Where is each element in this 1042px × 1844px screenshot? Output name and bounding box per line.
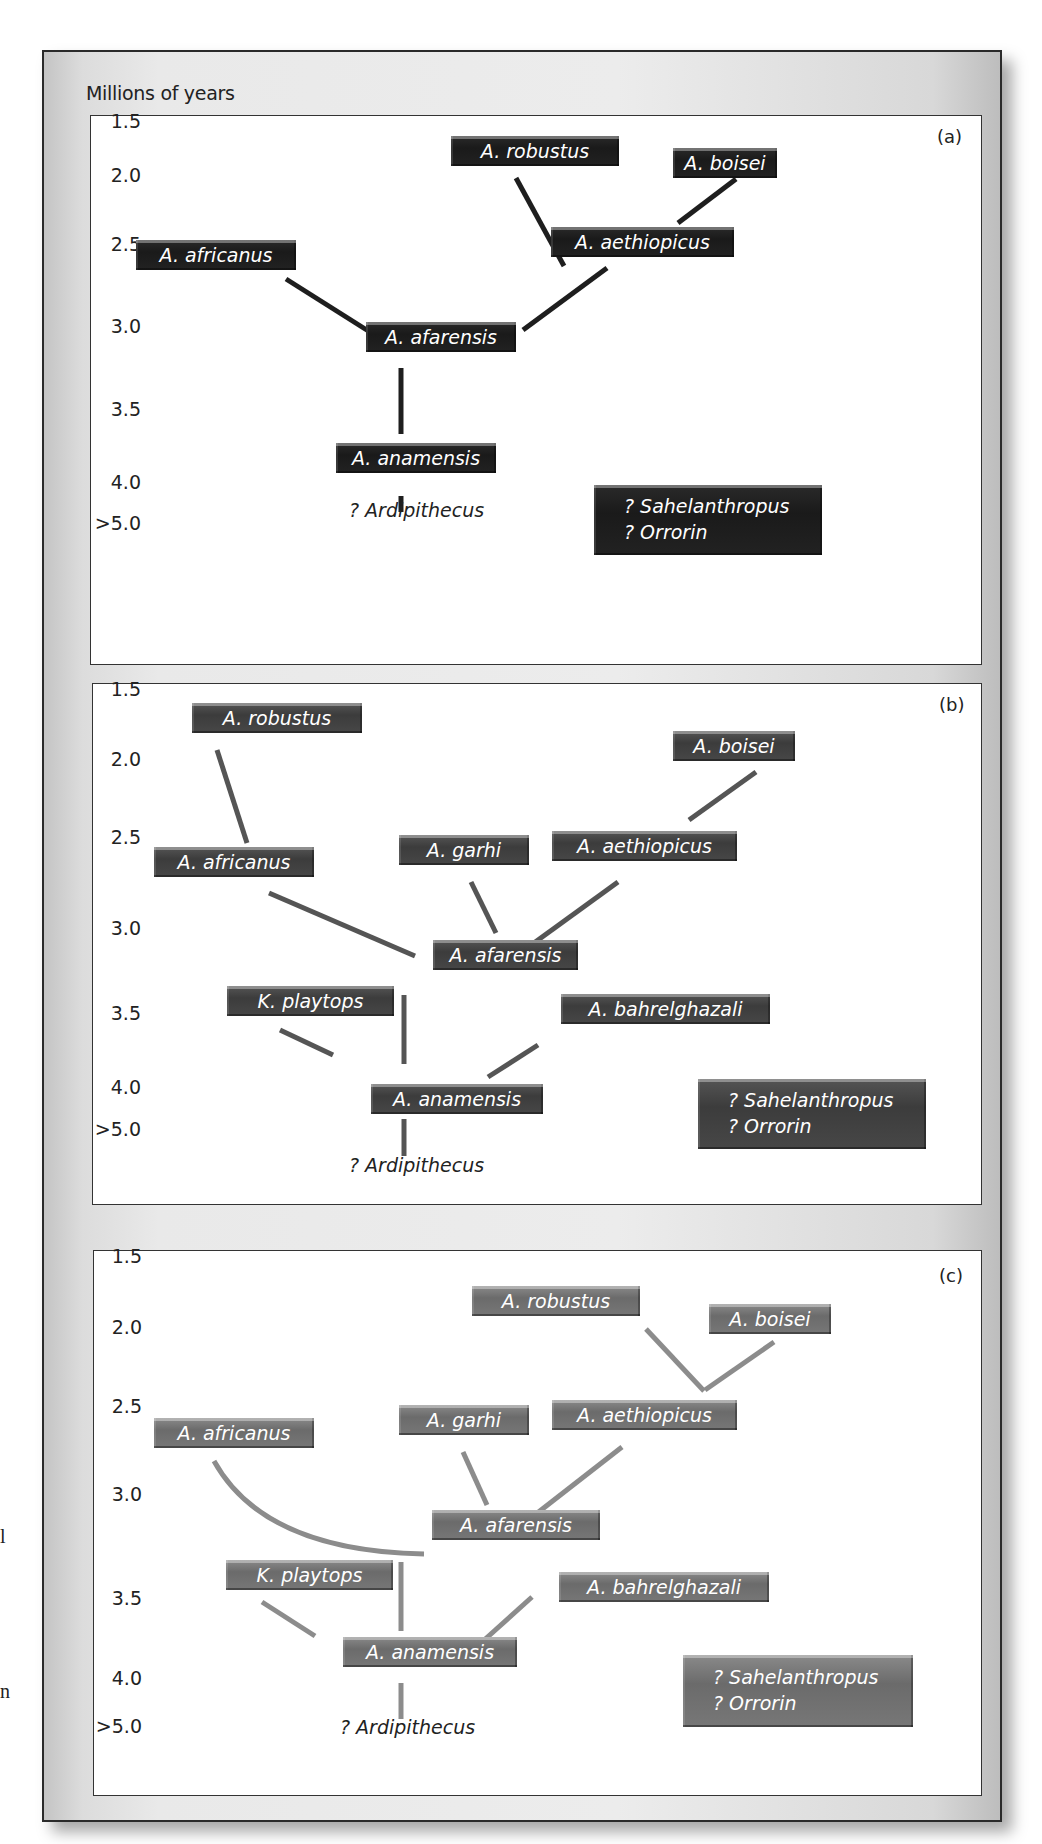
tick-1-5: 1.5 — [81, 110, 141, 132]
node-robustus: A. robustus — [192, 703, 362, 733]
panel-a-links — [91, 116, 981, 664]
y-axis-title: Millions of years — [86, 82, 235, 104]
node-garhi: A. garhi — [399, 1405, 529, 1435]
node-africanus: A. africanus — [136, 240, 296, 270]
tick-2-0: 2.0 — [81, 748, 141, 770]
tick-3-5: 3.5 — [81, 1002, 141, 1024]
node-anamensis: A. anamensis — [371, 1084, 543, 1114]
tick-2-5: 2.5 — [81, 233, 141, 255]
panel-label-a: (a) — [937, 126, 962, 147]
node-boisei: A. boisei — [673, 731, 795, 761]
node-sahelanthropus-orrorin: ? Sahelanthropus ? Orrorin — [594, 485, 822, 555]
node-ardipithecus: ? Ardipithecus — [349, 1154, 484, 1176]
margin-text-fragment: n — [0, 1680, 10, 1703]
node-africanus: A. africanus — [154, 847, 314, 877]
tick-4-0: 4.0 — [81, 471, 141, 493]
tick-5-0: >5.0 — [81, 1118, 141, 1140]
node-orrorin: ? Orrorin — [624, 519, 822, 545]
node-sahelanthropus: ? Sahelanthropus — [624, 493, 822, 519]
node-anamensis: A. anamensis — [336, 443, 496, 473]
node-bahrelghazali: A. bahrelghazali — [561, 994, 770, 1024]
tick-4-0: 4.0 — [82, 1667, 142, 1689]
node-ardipithecus: ? Ardipithecus — [349, 499, 484, 521]
tick-2-5: 2.5 — [82, 1395, 142, 1417]
panel-label-c: (c) — [939, 1265, 963, 1286]
tick-3-0: 3.0 — [82, 1483, 142, 1505]
node-playtops: K. playtops — [226, 1560, 393, 1590]
tick-5-0: >5.0 — [82, 1715, 142, 1737]
node-aethiopicus: A. aethiopicus — [551, 227, 734, 257]
tick-5-0: >5.0 — [81, 512, 141, 534]
node-aethiopicus: A. aethiopicus — [552, 831, 737, 861]
node-boisei: A. boisei — [673, 148, 777, 178]
tick-4-0: 4.0 — [81, 1076, 141, 1098]
node-robustus: A. robustus — [472, 1286, 640, 1316]
panel-c: 1.5 2.0 2.5 3.0 3.5 4.0 >5.0 (c) A. robu… — [93, 1250, 982, 1796]
tick-1-5: 1.5 — [82, 1245, 142, 1267]
node-sahelanthropus-orrorin: ? Sahelanthropus ? Orrorin — [683, 1655, 913, 1727]
node-ardipithecus: ? Ardipithecus — [340, 1716, 475, 1738]
tick-3-5: 3.5 — [81, 398, 141, 420]
tick-2-0: 2.0 — [82, 1316, 142, 1338]
node-sahelanthropus-orrorin: ? Sahelanthropus ? Orrorin — [698, 1079, 926, 1149]
node-orrorin: ? Orrorin — [713, 1690, 913, 1716]
node-anamensis: A. anamensis — [343, 1637, 517, 1667]
panel-a: 1.5 2.0 2.5 3.0 3.5 4.0 >5.0 (a) A. robu… — [90, 115, 982, 665]
node-sahelanthropus: ? Sahelanthropus — [713, 1664, 913, 1690]
node-playtops: K. playtops — [227, 986, 394, 1016]
node-orrorin: ? Orrorin — [728, 1113, 926, 1139]
node-garhi: A. garhi — [399, 835, 529, 865]
tick-3-0: 3.0 — [81, 315, 141, 337]
node-aethiopicus: A. aethiopicus — [552, 1400, 737, 1430]
tick-3-0: 3.0 — [81, 917, 141, 939]
node-africanus: A. africanus — [154, 1418, 314, 1448]
tick-2-0: 2.0 — [81, 164, 141, 186]
node-afarensis: A. afarensis — [366, 322, 516, 352]
panel-b: 1.5 2.0 2.5 3.0 3.5 4.0 >5.0 (b) A. robu… — [92, 683, 982, 1205]
panel-label-b: (b) — [939, 694, 964, 715]
tick-1-5: 1.5 — [81, 678, 141, 700]
node-bahrelghazali: A. bahrelghazali — [559, 1572, 769, 1602]
node-sahelanthropus: ? Sahelanthropus — [728, 1087, 926, 1113]
node-afarensis: A. afarensis — [432, 1510, 600, 1540]
node-afarensis: A. afarensis — [433, 940, 578, 970]
node-robustus: A. robustus — [451, 136, 619, 166]
tick-3-5: 3.5 — [82, 1587, 142, 1609]
tick-2-5: 2.5 — [81, 826, 141, 848]
node-boisei: A. boisei — [709, 1304, 831, 1334]
margin-text-fragment: l — [0, 1525, 6, 1548]
